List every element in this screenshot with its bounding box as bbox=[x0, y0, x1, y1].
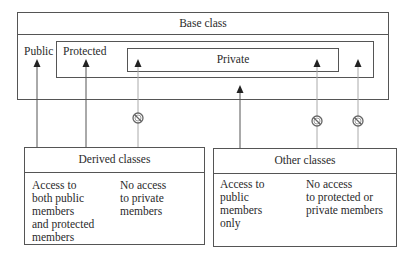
prohibited-icon bbox=[133, 113, 143, 123]
arrow-other-to-protected-blocked bbox=[353, 59, 363, 148]
arrows-layer bbox=[0, 0, 410, 260]
arrowhead-icon bbox=[237, 85, 244, 93]
arrowhead-icon bbox=[34, 59, 41, 67]
arrowhead-icon bbox=[135, 59, 142, 67]
arrow-other-to-private-blocked bbox=[312, 59, 322, 148]
arrowhead-icon bbox=[314, 59, 321, 67]
arrow-derived-to-protected bbox=[83, 59, 90, 147]
arrow-derived-to-public bbox=[34, 59, 41, 147]
arrowhead-icon bbox=[355, 59, 362, 67]
arrow-other-to-public bbox=[237, 85, 244, 148]
prohibited-icon bbox=[312, 116, 322, 126]
arrow-derived-to-private-blocked bbox=[133, 59, 143, 147]
prohibited-icon bbox=[353, 116, 363, 126]
arrowhead-icon bbox=[83, 59, 90, 67]
